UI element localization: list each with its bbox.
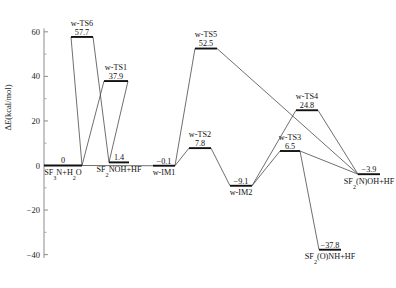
species-name-label: w-IM1 — [153, 168, 176, 177]
connector-line — [318, 110, 358, 174]
species-name-label: w-TS4 — [296, 92, 318, 101]
connector-line — [71, 37, 82, 166]
connector-line — [300, 151, 319, 250]
energy-value-label: 7.8 — [195, 139, 205, 148]
y-tick-label: 60 — [32, 27, 41, 37]
connector-line — [211, 148, 230, 186]
y-axis-title: ΔE(kcal/mol) — [3, 84, 13, 130]
connector-line — [217, 49, 358, 175]
energy-value-label: 6.5 — [285, 142, 295, 151]
species-name-label: w-TS5 — [195, 30, 217, 39]
energy-value-label: 52.5 — [199, 39, 213, 48]
energy-value-label: 0 — [61, 156, 65, 165]
species-name-label: SF2NOH+HF — [97, 165, 142, 178]
y-tick-label: 40 — [32, 71, 41, 81]
species-name-label: w-TS3 — [279, 133, 301, 142]
connector-line — [252, 151, 280, 186]
species-name-label: w-IM2 — [230, 188, 253, 197]
connector-line — [109, 81, 128, 162]
species-name-label: w-TS1 — [105, 63, 127, 72]
energy-value-label: −0.1 — [157, 157, 172, 166]
energy-profile-diagram: 6040200−20−40 0SF3N+H2O57.7w-TS637.9w-TS… — [0, 0, 396, 288]
y-axis-title-text: ΔE(kcal/mol) — [3, 84, 13, 130]
y-axis: 6040200−20−40 — [27, 27, 48, 260]
energy-value-label: −9.1 — [234, 177, 249, 186]
y-tick-label: −20 — [27, 205, 40, 215]
species-labels: 0SF3N+H2O57.7w-TS637.9w-TS11.4SF2NOH+HF−… — [44, 19, 394, 266]
species-name-label: SF3N+H2O — [44, 168, 82, 181]
energy-value-label: 37.9 — [109, 72, 123, 81]
connector-line — [175, 148, 189, 166]
connector-line — [300, 151, 358, 174]
species-name-label: w-TS2 — [189, 130, 211, 139]
energy-diagram-svg: 6040200−20−40 0SF3N+H2O57.7w-TS637.9w-TS… — [0, 0, 396, 288]
connector-line — [93, 37, 109, 162]
species-name-label: w-TS6 — [71, 19, 93, 28]
species-name-label: SF2(N)OH+HF — [344, 177, 395, 190]
energy-value-label: 1.4 — [114, 153, 124, 162]
energy-value-label: 57.7 — [75, 28, 89, 37]
energy-value-label: −37.8 — [321, 241, 340, 250]
y-tick-label: 0 — [36, 161, 40, 171]
energy-level-bars — [44, 37, 380, 250]
energy-value-label: 24.8 — [300, 101, 314, 110]
connector-line — [82, 81, 104, 165]
y-tick-label: 20 — [32, 116, 41, 126]
y-tick-label: −40 — [27, 250, 40, 260]
species-name-label: SF2(O)NH+HF — [305, 252, 356, 265]
energy-value-label: −3.9 — [362, 165, 377, 174]
